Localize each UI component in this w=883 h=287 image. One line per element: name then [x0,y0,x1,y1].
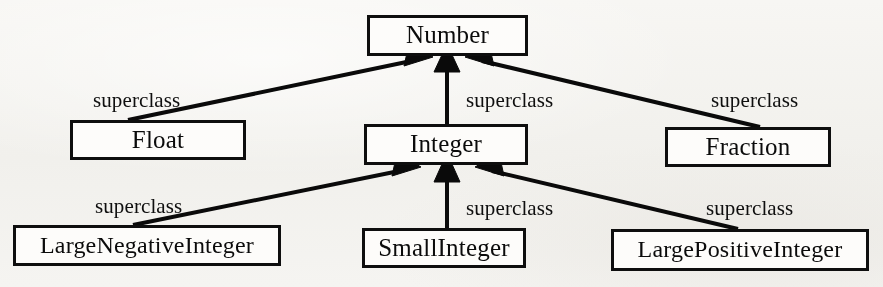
edge-label-lni-to-integer: superclass [95,194,182,219]
node-label-integer: Integer [410,131,482,156]
node-number[interactable]: Number [367,15,528,56]
edge-integer-to-number [434,44,460,124]
node-label-number: Number [406,22,489,47]
edge-label-integer-to-number: superclass [466,88,553,113]
node-float[interactable]: Float [70,120,246,160]
node-integer[interactable]: Integer [364,124,528,165]
edge-fraction-to-number [465,44,760,127]
node-label-small-integer: SmallInteger [378,235,510,260]
node-label-fraction: Fraction [706,134,791,159]
node-large-positive-integer[interactable]: LargePositiveInteger [611,229,869,271]
class-hierarchy-diagram: Number Float Integer Fraction LargeNegat… [0,0,883,287]
node-large-negative-integer[interactable]: LargeNegativeInteger [13,225,281,266]
node-label-float: Float [132,127,184,152]
node-fraction[interactable]: Fraction [665,127,831,167]
node-label-large-positive-integer: LargePositiveInteger [638,237,843,261]
node-label-large-negative-integer: LargeNegativeInteger [40,233,254,257]
edge-label-fraction-to-number: superclass [711,88,798,113]
edge-label-float-to-number: superclass [93,88,180,113]
node-small-integer[interactable]: SmallInteger [362,228,526,268]
edge-label-si-to-integer: superclass [466,196,553,221]
edge-label-lpi-to-integer: superclass [706,196,793,221]
